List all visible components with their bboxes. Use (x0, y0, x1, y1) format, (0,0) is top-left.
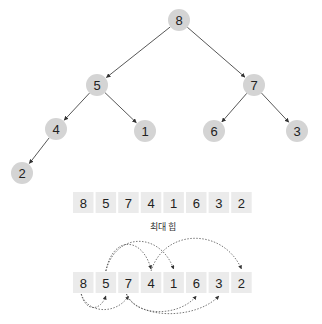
svg-text:1: 1 (170, 196, 177, 211)
svg-text:6: 6 (193, 276, 200, 291)
tree-node-5: 5 (86, 74, 108, 96)
svg-text:3: 3 (215, 196, 222, 211)
svg-text:7: 7 (125, 196, 132, 211)
array-cell: 2 (231, 192, 252, 213)
array-cell: 3 (209, 192, 230, 213)
tree-node-4: 4 (45, 118, 67, 140)
parent-child-arc (106, 244, 151, 271)
tree-node-8: 8 (168, 9, 190, 31)
svg-text:4: 4 (147, 276, 154, 291)
array-cell: 7 (118, 272, 139, 293)
parent-child-arc (81, 294, 128, 310)
array-caption: 최대 힙 (150, 222, 177, 232)
svg-text:6: 6 (210, 124, 217, 139)
array-cell: 1 (163, 272, 184, 293)
svg-text:6: 6 (193, 196, 200, 211)
array-cell: 8 (73, 192, 94, 213)
array-cell: 1 (163, 192, 184, 213)
parent-child-arc (126, 294, 196, 312)
svg-text:8: 8 (80, 276, 87, 291)
svg-text:3: 3 (215, 276, 222, 291)
heap-array: 85741632 (73, 192, 252, 213)
tree-edge (105, 93, 136, 123)
tree-edge (64, 93, 89, 120)
svg-text:2: 2 (18, 166, 25, 181)
svg-text:1: 1 (141, 124, 148, 139)
svg-text:5: 5 (102, 196, 109, 211)
tree-edge (262, 93, 289, 122)
parent-child-arc (81, 294, 106, 308)
svg-text:7: 7 (125, 276, 132, 291)
tree-edge (29, 138, 49, 164)
array-cell: 6 (186, 272, 207, 293)
tree-edge (222, 93, 247, 122)
tree-node-2: 2 (11, 162, 33, 184)
array-cell: 6 (186, 192, 207, 213)
tree-node-1: 1 (134, 120, 156, 142)
array-cell: 3 (209, 272, 230, 293)
parent-child-arc (106, 241, 174, 271)
tree-edge (106, 27, 170, 78)
svg-text:4: 4 (52, 122, 59, 137)
svg-text:8: 8 (80, 196, 87, 211)
tree-node-7: 7 (243, 74, 265, 96)
array-cell: 4 (141, 192, 162, 213)
array-cell: 5 (96, 272, 117, 293)
svg-text:4: 4 (147, 196, 154, 211)
svg-text:1: 1 (170, 276, 177, 291)
parent-child-arc (126, 294, 218, 314)
tree-node-6: 6 (203, 120, 225, 142)
svg-text:2: 2 (238, 276, 245, 291)
tree-edge (187, 27, 245, 77)
max-heap-diagram: 85741632 85741632 최대 힙 85741632 (0, 0, 322, 324)
parent-child-arc (151, 238, 241, 271)
array-cell: 7 (118, 192, 139, 213)
svg-text:7: 7 (250, 78, 257, 93)
array-cell: 8 (73, 272, 94, 293)
array-cell: 4 (141, 272, 162, 293)
svg-text:5: 5 (93, 78, 100, 93)
array-cell: 5 (96, 192, 117, 213)
svg-text:2: 2 (238, 196, 245, 211)
svg-text:3: 3 (293, 124, 300, 139)
svg-text:5: 5 (102, 276, 109, 291)
svg-text:8: 8 (175, 13, 182, 28)
array-cell: 2 (231, 272, 252, 293)
tree-node-3: 3 (286, 120, 308, 142)
heap-array-with-links: 85741632 (73, 272, 252, 293)
